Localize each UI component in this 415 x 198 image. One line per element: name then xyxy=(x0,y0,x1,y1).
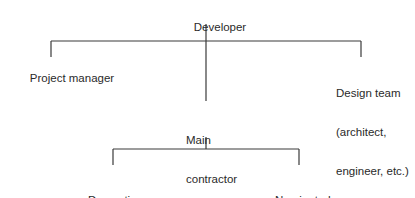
node-nominated-subcontractor: Nominated subcontractor xyxy=(275,168,345,198)
node-developer: Developer xyxy=(181,8,246,47)
design-team-label-line2: (architect, xyxy=(336,126,409,139)
main-contractor-label-line1: Main xyxy=(186,134,237,147)
node-design-team: Design team (architect, engineer, etc.) xyxy=(336,61,409,198)
main-contractor-label-line2: contractor xyxy=(186,173,237,186)
node-main-contractor: Main contractor xyxy=(186,108,237,198)
node-project-manager: Project manager xyxy=(17,59,114,98)
design-team-label-line1: Design team xyxy=(336,87,409,100)
node-domestic-subcontractor: Domestic subcontractor xyxy=(88,168,158,198)
developer-label: Developer xyxy=(194,21,246,33)
nominated-label-line1: Nominated xyxy=(275,194,345,198)
design-team-label-line3: engineer, etc.) xyxy=(336,165,409,178)
org-chart-diagram: Developer Project manager Design team (a… xyxy=(0,0,415,198)
project-manager-label: Project manager xyxy=(30,72,114,84)
domestic-label-line1: Domestic xyxy=(88,194,158,198)
